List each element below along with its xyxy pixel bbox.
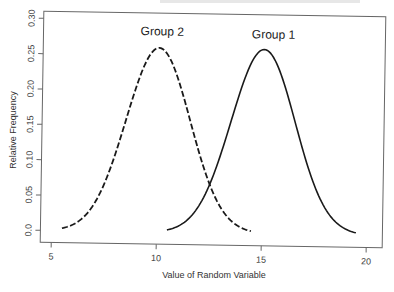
- y-tick-label: 0.10: [24, 151, 34, 169]
- y-tick-label: 0.05: [24, 186, 34, 204]
- y-tick-label: 0.25: [26, 45, 36, 63]
- x-tick-label: 20: [361, 256, 371, 266]
- x-axis: 5101520: [48, 242, 371, 266]
- chart: 0.00.050.100.150.200.250.30 5101520 Grou…: [0, 0, 394, 292]
- y-tick-label: 0.15: [25, 115, 35, 133]
- x-tick-label: 15: [256, 255, 266, 265]
- y-tick-label: 0.30: [27, 9, 37, 27]
- plot-frame: [40, 11, 386, 247]
- x-tick-label: 10: [151, 253, 161, 263]
- cut-off-caption: [160, 0, 360, 3]
- x-tick-label: 5: [48, 251, 53, 261]
- y-tick-label: 0.0: [23, 224, 33, 237]
- plot-region: 0.00.050.100.150.200.250.30 5101520 Grou…: [23, 9, 386, 266]
- y-tick-label: 0.20: [25, 80, 35, 98]
- x-axis-title: Value of Random Variable: [162, 270, 266, 280]
- y-axis-title: Relative Frequency: [8, 91, 18, 169]
- group1-label: Group 1: [252, 27, 296, 42]
- group2-label: Group 2: [141, 24, 185, 39]
